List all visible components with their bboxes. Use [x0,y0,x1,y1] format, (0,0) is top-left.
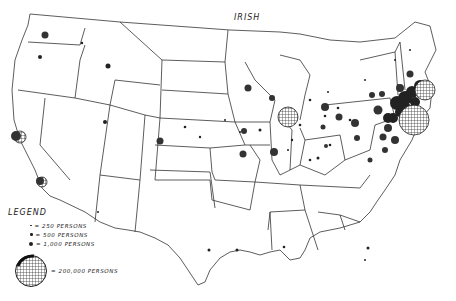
legend: LEGEND = 250 PERSONS = 500 PERSONS = 1,0… [8,208,95,248]
legend-heading: LEGEND [8,208,95,217]
legend-item-1000: = 1,000 PERSONS [8,239,95,248]
legend-item-250: = 250 PERSONS [8,221,95,230]
legend-label: = 200,000 PERSONS [51,268,118,274]
legend-item-200000: = 200,000 PERSONS [14,254,118,288]
large-dot-icon [29,242,33,246]
legend-label: = 250 PERSONS [35,223,87,229]
globe-icon [14,254,48,288]
small-dot-icon [30,225,32,227]
population-circles [42,32,414,163]
map-title: IRISH [234,13,260,22]
legend-label: = 500 PERSONS [36,232,88,238]
west-coast-circles [11,131,44,185]
medium-dot-icon [30,233,33,236]
legend-item-500: = 500 PERSONS [8,230,95,239]
legend-label: = 1,000 PERSONS [36,241,95,247]
